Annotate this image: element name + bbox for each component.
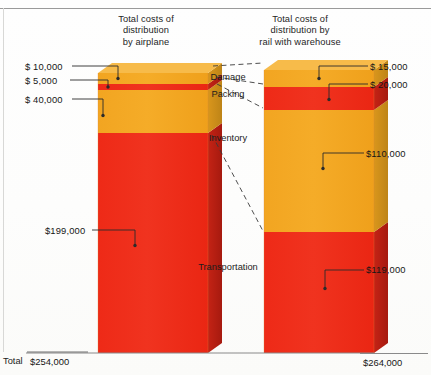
left-segment-damage [98, 73, 208, 84]
figure-canvas: Total costs of distribution by airplane … [0, 0, 431, 375]
right-segment-inventory-side [374, 100, 388, 232]
right-segment-inventory [264, 110, 374, 232]
right-bar-group [264, 60, 388, 353]
category-label-inventory: Inventory [192, 133, 264, 143]
total-row-label: Total [3, 356, 23, 366]
left-segment-packing [98, 84, 208, 90]
total-value-right: $264,000 [363, 357, 402, 368]
right-segment-transportation [264, 232, 374, 353]
value-label-left-damage: $ 10,000 [25, 61, 63, 72]
left-bar-group [98, 63, 222, 353]
value-label-left-inventory: $ 40,000 [25, 94, 63, 105]
category-label-transportation: Transportation [182, 262, 274, 272]
right-segment-packing [264, 87, 374, 110]
left-segment-transportation-side [208, 123, 222, 353]
total-value-left: $254,000 [30, 356, 69, 367]
left-segment-inventory [98, 90, 208, 133]
stacked-bar-chart [0, 0, 431, 375]
value-label-right-inventory: $110,000 [366, 148, 406, 159]
value-label-left-transportation: $199,000 [45, 225, 85, 236]
value-label-right-damage: $ 15,000 [370, 61, 408, 72]
left-segment-transportation [98, 133, 208, 353]
category-label-damage: Damage [197, 72, 259, 82]
value-label-right-packing: $ 20,000 [370, 79, 408, 90]
value-label-right-transportation: $119,000 [366, 264, 406, 275]
right-segment-transportation-side [374, 222, 388, 353]
value-label-left-packing: $ 5,000 [25, 75, 57, 86]
category-label-packing: Packing [197, 89, 259, 99]
